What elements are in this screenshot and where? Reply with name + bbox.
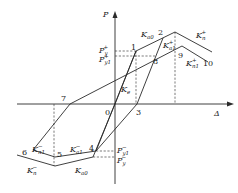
point-4-label: 4 xyxy=(89,144,94,153)
p-axis-arrow-icon xyxy=(113,11,118,18)
py1-plus-label: Py1+ xyxy=(98,53,111,66)
kn-plus-label: Kn+ xyxy=(195,29,207,41)
reload-4-0 xyxy=(96,51,136,151)
ka0-top-label: Ka0 xyxy=(140,30,154,40)
ka0-bottom-label: Ka0 xyxy=(74,166,88,176)
path-6-7-9-10 xyxy=(33,46,208,150)
ke-label: Ke xyxy=(120,85,131,95)
skeleton-negative xyxy=(17,104,115,166)
ka1-plus-label: Ka1+ xyxy=(162,39,176,51)
point-1-label: 1 xyxy=(131,43,136,52)
point-7-label: 7 xyxy=(61,94,66,103)
axis-delta-label: Δ xyxy=(213,109,220,118)
delta-axis-arrow-icon xyxy=(227,102,234,107)
kn1-plus-label: Kn1+ xyxy=(185,57,199,69)
path-3-4 xyxy=(96,104,137,151)
point-6-label: 6 xyxy=(22,148,27,157)
point-5-label: 5 xyxy=(57,150,62,159)
unload-2-3 xyxy=(137,38,163,104)
axis-p-label: P xyxy=(102,10,109,19)
point-0-label: 0 xyxy=(105,108,110,117)
point-9-label: 9 xyxy=(178,51,183,60)
point-2-label: 2 xyxy=(158,28,163,37)
py-minus-label: Py− xyxy=(116,154,127,167)
kn1-minus-label: Kn1− xyxy=(31,143,45,155)
kn-minus-label: Kn− xyxy=(26,164,38,176)
point-3-label: 3 xyxy=(136,108,141,117)
hysteresis-diagram: P Δ 0 1 2 3 4 5 6 7 8 9 10 Py+ Py1+ Py1−… xyxy=(0,0,238,193)
point-10-label: 10 xyxy=(203,59,213,68)
ka1-minus-label: Ka1− xyxy=(69,143,83,155)
point-8-label: 8 xyxy=(153,57,158,66)
